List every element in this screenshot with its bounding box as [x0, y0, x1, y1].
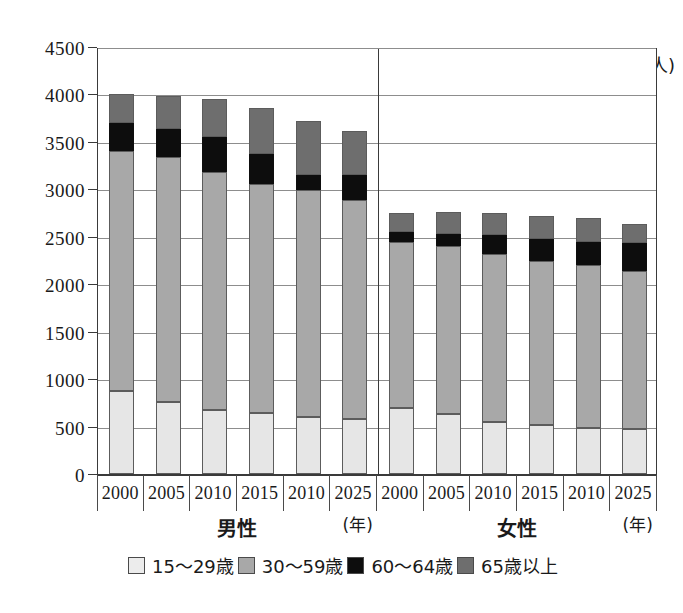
bar-segment: [296, 121, 321, 175]
bar-segment: [436, 234, 461, 246]
x-axis-unit-label: (年): [614, 511, 661, 536]
chart-canvas: 050010001500200025003000350040004500 (万人…: [0, 0, 683, 613]
bar-segment: [622, 271, 647, 429]
bar-segment: [529, 239, 554, 262]
bar-segment: [109, 391, 134, 474]
gridline: [98, 428, 656, 429]
x-tick-label: 2005: [424, 475, 471, 511]
bar-segment: [482, 422, 507, 474]
bar-segment: [109, 151, 134, 391]
bar-segment: [436, 246, 461, 414]
bar-segment: [202, 172, 227, 410]
x-tick-label: 2015: [237, 475, 284, 511]
gridline: [98, 285, 656, 286]
y-axis: 050010001500200025003000350040004500: [0, 0, 97, 613]
bar-segment: [436, 414, 461, 474]
legend-swatch: [128, 557, 145, 574]
legend-label: 65歳以上: [481, 552, 558, 578]
y-tick-mark: [88, 474, 97, 475]
y-tick-mark: [88, 284, 97, 285]
bar-segment: [576, 428, 601, 474]
bar-segment: [296, 175, 321, 190]
bar-segment: [202, 410, 227, 474]
legend-label: 30〜59歳: [262, 552, 344, 578]
bar-segment: [342, 175, 367, 200]
bar-segment: [202, 137, 227, 172]
bar-segment: [109, 94, 134, 122]
x-tick-label: 2010: [190, 475, 237, 511]
y-tick-mark: [88, 94, 97, 95]
bar-segment: [482, 254, 507, 422]
y-tick-label: 1000: [45, 371, 85, 390]
bar-segment: [622, 243, 647, 271]
legend-label: 15〜29歳: [152, 552, 234, 578]
group-divider: [378, 49, 379, 474]
bar-segment: [342, 200, 367, 419]
bar-segment: [342, 419, 367, 474]
legend-label: 60〜64歳: [371, 552, 453, 578]
bar-segment: [576, 265, 601, 427]
x-tick-label: 2025: [330, 475, 377, 511]
x-tick-label: 2015: [517, 475, 564, 511]
legend-item: 65歳以上: [457, 552, 558, 578]
x-tick-label: 2010: [470, 475, 517, 511]
bar-segment: [296, 190, 321, 417]
bar-segment: [622, 224, 647, 244]
y-tick-mark: [88, 189, 97, 190]
bar-segment: [156, 402, 181, 474]
bar-segment: [249, 184, 274, 414]
legend-item: 60〜64歳: [347, 552, 453, 578]
bar-segment: [156, 96, 181, 128]
x-tick-label: 2010: [284, 475, 331, 511]
bar-segment: [342, 131, 367, 176]
bar-segment: [249, 154, 274, 183]
y-tick-label: 4500: [45, 39, 85, 58]
y-tick-mark: [88, 142, 97, 143]
y-tick-label: 4000: [45, 86, 85, 105]
bar-segment: [622, 429, 647, 474]
y-tick-mark: [88, 427, 97, 428]
x-axis-unit-label: (年): [334, 511, 381, 536]
y-tick-label: 2000: [45, 276, 85, 295]
gridline: [98, 333, 656, 334]
bar-segment: [576, 242, 601, 266]
y-tick-label: 1500: [45, 324, 85, 343]
bar-segment: [249, 108, 274, 154]
y-tick-mark: [88, 237, 97, 238]
bar-segment: [156, 157, 181, 402]
bar-segment: [156, 129, 181, 157]
legend-swatch: [457, 557, 474, 574]
bar-segment: [389, 242, 414, 407]
bar-segment: [389, 232, 414, 242]
bar-segment: [482, 235, 507, 254]
bar-segment: [482, 213, 507, 235]
y-tick-label: 500: [55, 419, 85, 438]
legend-swatch: [238, 557, 255, 574]
bar-segment: [576, 218, 601, 242]
x-tick-label: 2010: [564, 475, 611, 511]
gridline: [98, 48, 656, 49]
y-tick-mark: [88, 379, 97, 380]
y-tick-label: 3000: [45, 181, 85, 200]
bar-segment: [202, 99, 227, 137]
bar-segment: [529, 425, 554, 474]
gridline: [98, 143, 656, 144]
plot-area: [97, 48, 657, 475]
y-tick-label: 0: [75, 466, 85, 485]
bar-segment: [529, 216, 554, 239]
bar-segment: [389, 213, 414, 232]
gridline: [98, 190, 656, 191]
x-tick-label: 2000: [377, 475, 424, 511]
bar-segment: [296, 417, 321, 474]
legend-item: 15〜29歳: [128, 552, 234, 578]
chart-legend: 15〜29歳30〜59歳60〜64歳65歳以上: [128, 551, 558, 579]
gridline: [98, 380, 656, 381]
x-tick-label: 2005: [144, 475, 191, 511]
x-tick-label: 2025: [610, 475, 657, 511]
legend-item: 30〜59歳: [238, 552, 344, 578]
x-axis-labels: 2000200520102015201020252000200520102015…: [97, 475, 657, 511]
bar-segment: [249, 413, 274, 474]
y-tick-mark: [88, 47, 97, 48]
bar-segment: [436, 212, 461, 234]
legend-swatch: [347, 557, 364, 574]
